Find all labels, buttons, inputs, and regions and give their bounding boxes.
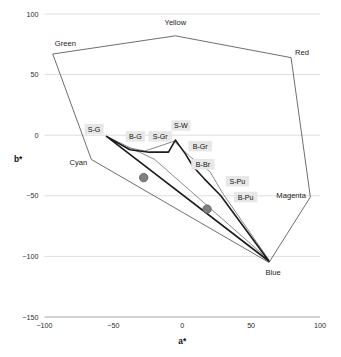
- vertex-label-red: Red: [295, 48, 309, 57]
- ytick-label-0: 0: [35, 131, 39, 140]
- label-text-B-Pu: B-Pu: [238, 194, 254, 202]
- label-text-B-Br: B-Br: [196, 161, 211, 169]
- vertex-label-blue: Blue: [265, 268, 280, 277]
- sample-label-layer: S-GB-GS-GrS-WB-GrB-BrS-PuB-Pu: [85, 120, 258, 202]
- marker-sample-point-1: [139, 173, 147, 181]
- ab-chromaticity-plot: S-GB-GS-GrS-WB-GrB-BrS-PuB-Pu GreenYello…: [0, 0, 341, 357]
- y-axis-title: b*: [14, 154, 23, 164]
- label-text-S-W: S-W: [174, 122, 188, 130]
- x-axis-title: a*: [178, 336, 187, 346]
- vertex-label-magenta: Magenta: [276, 191, 306, 200]
- tick-label-layer: 100500−50−100−150−100−50050100: [22, 10, 326, 330]
- gamut-series-layer: [53, 36, 311, 263]
- xtick-label--50: −50: [107, 321, 119, 330]
- label-text-S-G: S-G: [88, 126, 101, 134]
- ytick-label--100: −100: [22, 252, 38, 261]
- label-text-S-Gr: S-Gr: [153, 133, 169, 141]
- xtick-label-50: 50: [247, 321, 255, 330]
- ytick-label--50: −50: [26, 191, 38, 200]
- vertex-label-cyan: Cyan: [70, 158, 88, 167]
- chart-root: S-GB-GS-GrS-WB-GrB-BrS-PuB-Pu GreenYello…: [0, 0, 341, 357]
- label-text-B-Gr: B-Gr: [193, 143, 209, 151]
- ytick-label-50: 50: [31, 70, 39, 79]
- label-text-B-G: B-G: [129, 133, 142, 141]
- xtick-label-100: 100: [314, 321, 326, 330]
- vertex-label-yellow: Yellow: [165, 18, 187, 27]
- primary-vertex-label-layer: GreenYellowRedMagentaBlueCyan: [55, 18, 309, 278]
- marker-sample-point-2: [203, 205, 211, 213]
- label-text-S-Pu: S-Pu: [229, 178, 245, 186]
- xtick-label--100: −100: [36, 321, 52, 330]
- vertex-label-green: Green: [55, 39, 76, 48]
- xtick-label-0: 0: [180, 321, 184, 330]
- ytick-label-100: 100: [27, 10, 39, 19]
